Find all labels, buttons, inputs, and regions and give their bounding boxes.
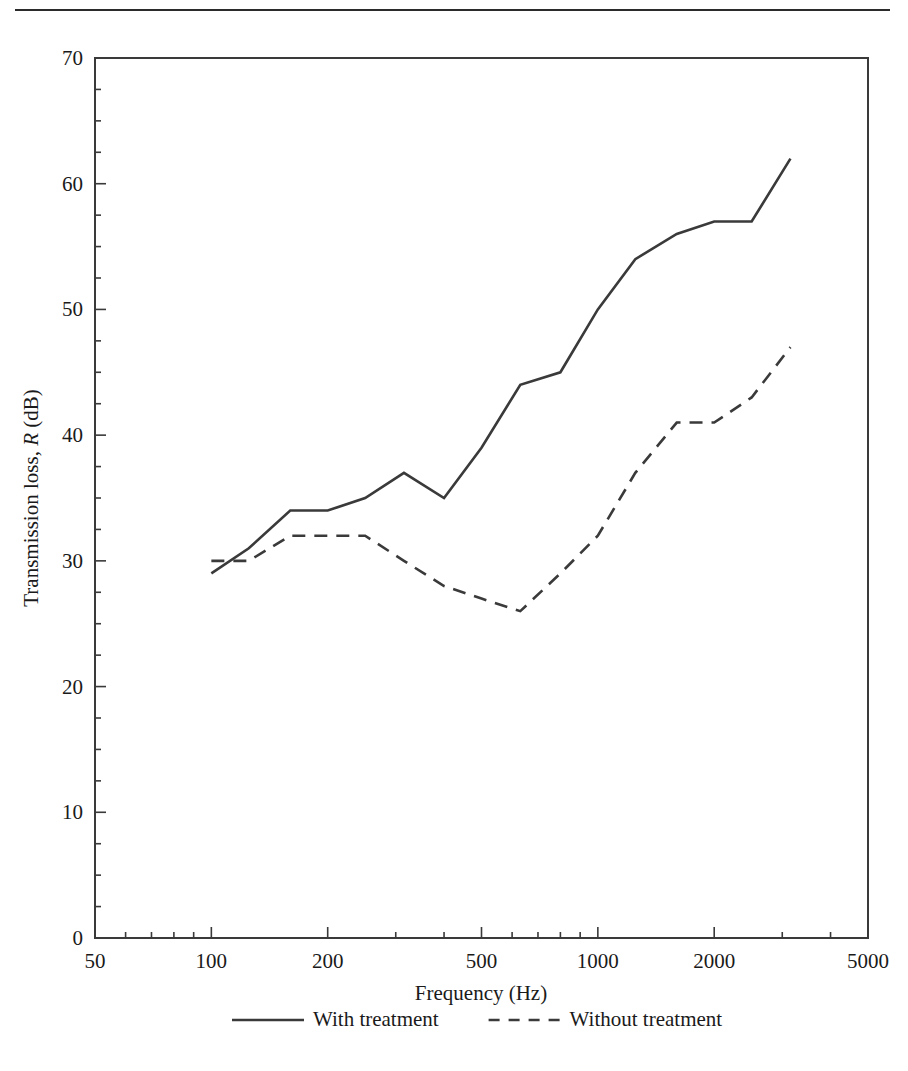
y-tick-label: 50 (62, 297, 83, 321)
series-line-without-treatment (211, 347, 790, 611)
series-line-with-treatment (211, 159, 790, 574)
legend-label: Without treatment (570, 1007, 723, 1031)
x-tick-label: 500 (466, 949, 498, 973)
y-tick-label: 10 (62, 800, 83, 824)
y-tick-label: 70 (62, 46, 83, 70)
data-series-layer (211, 159, 790, 612)
plot-frame (95, 58, 868, 938)
x-tick-label: 1000 (577, 949, 619, 973)
chart-legend: With treatmentWithout treatment (232, 1007, 722, 1031)
x-tick-label: 5000 (847, 949, 889, 973)
x-axis-title: Frequency (Hz) (415, 981, 547, 1005)
y-tick-label: 0 (73, 926, 84, 950)
y-tick-label: 40 (62, 423, 83, 447)
legend-label: With treatment (313, 1007, 439, 1031)
x-tick-label: 2000 (693, 949, 735, 973)
y-tick-label: 60 (62, 172, 83, 196)
figure-container: 010203040506070 50100200500100020005000 … (0, 0, 908, 1071)
transmission-loss-line-chart: 010203040506070 50100200500100020005000 … (0, 0, 908, 1071)
x-tick-label: 100 (196, 949, 228, 973)
x-axis-tick-labels: 50100200500100020005000 (85, 949, 890, 973)
x-tick-label: 50 (85, 949, 106, 973)
y-tick-label: 20 (62, 675, 83, 699)
x-axis-major-ticks (95, 927, 868, 938)
y-tick-label: 30 (62, 549, 83, 573)
y-axis-tick-labels: 010203040506070 (62, 46, 83, 950)
x-tick-label: 200 (312, 949, 344, 973)
y-axis-title: Transmission loss, R (dB) (19, 389, 43, 606)
